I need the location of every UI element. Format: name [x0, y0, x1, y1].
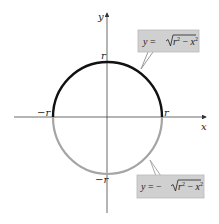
tick-x-positive: r: [164, 107, 170, 118]
tick-x-negative: −r: [37, 107, 51, 118]
upper-semicircle: [53, 62, 162, 117]
upper-equation: y =: [142, 36, 156, 47]
lower-equation-callout: y = − r2 − x2: [137, 160, 204, 198]
svg-text:r2 − x2: r2 − x2: [178, 181, 203, 192]
svg-text:r2 − x2: r2 − x2: [173, 36, 198, 47]
x-axis-label: x: [201, 121, 207, 132]
y-axis-label: y: [97, 11, 104, 22]
lower-equation: y = −: [140, 181, 162, 192]
circle-diagram: y x r −r −r r y = r2 − x2 y = − r2 − x2: [0, 0, 219, 224]
lower-semicircle: [53, 117, 162, 174]
upper-equation-callout: y = r2 − x2: [138, 30, 199, 69]
tick-y-positive: r: [101, 50, 107, 61]
tick-y-negative: −r: [95, 174, 109, 185]
